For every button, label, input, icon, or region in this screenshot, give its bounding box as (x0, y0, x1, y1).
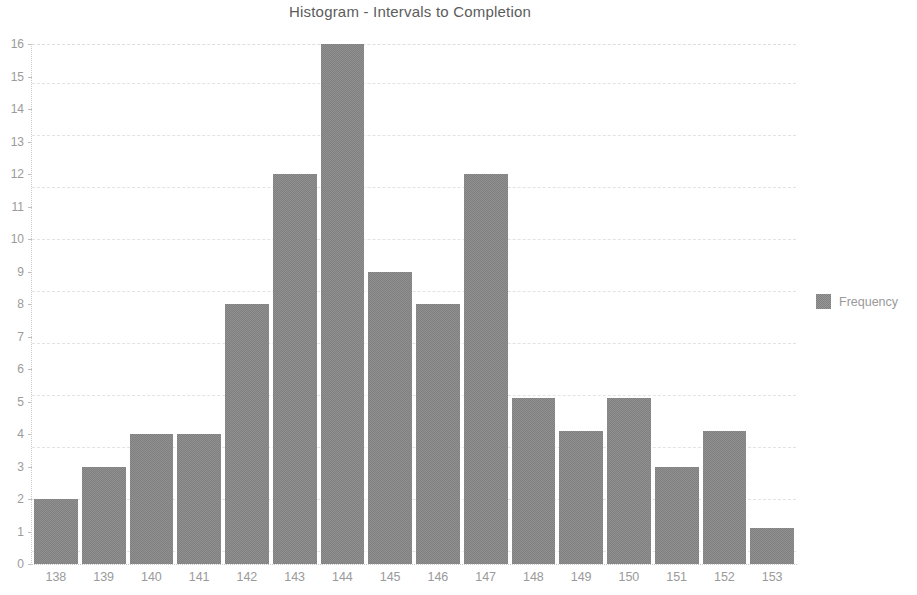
x-axis-tick-label: 147 (462, 570, 510, 584)
bar (607, 398, 651, 564)
y-axis-tick-label: 7 (17, 330, 24, 344)
legend-label-frequency: Frequency (839, 295, 898, 309)
y-axis-tick-label: 4 (17, 427, 24, 441)
y-axis-tick-label: 9 (17, 265, 24, 279)
legend-swatch-frequency (816, 294, 831, 309)
x-axis: 1381391401411421431441451461471481491501… (32, 568, 796, 594)
bar (82, 467, 126, 565)
bar (34, 499, 78, 564)
bar (464, 174, 508, 564)
plot-area (32, 44, 796, 564)
legend: Frequency (816, 294, 898, 309)
y-axis-tick-label: 13 (11, 135, 24, 149)
x-axis-tick-label: 153 (748, 570, 796, 584)
bar (559, 431, 603, 564)
y-axis-tick-label: 11 (12, 200, 24, 214)
bar (512, 398, 556, 564)
bar (225, 304, 269, 564)
bar (368, 272, 412, 565)
y-axis-tick-label: 2 (17, 492, 24, 506)
x-axis-tick-label: 144 (319, 570, 367, 584)
x-axis-tick-label: 150 (605, 570, 653, 584)
bar (750, 528, 794, 564)
x-axis-tick-label: 140 (128, 570, 176, 584)
histogram-chart: Histogram - Intervals to Completion 0123… (0, 0, 917, 595)
x-axis-tick-label: 138 (32, 570, 80, 584)
x-axis-tick-label: 148 (510, 570, 558, 584)
bar (177, 434, 221, 564)
x-axis-tick-label: 152 (701, 570, 749, 584)
x-axis-tick-label: 143 (271, 570, 319, 584)
x-axis-line (31, 564, 797, 565)
bar (321, 44, 365, 564)
bar (703, 431, 747, 564)
y-axis-tick-label: 1 (17, 525, 24, 539)
x-axis-tick-label: 139 (80, 570, 128, 584)
y-axis-tick-label: 15 (11, 70, 24, 84)
x-axis-tick-label: 151 (653, 570, 701, 584)
x-axis-tick-label: 146 (414, 570, 462, 584)
x-axis-tick-label: 145 (366, 570, 414, 584)
x-axis-tick-label: 149 (557, 570, 605, 584)
y-axis-tick-label: 16 (11, 37, 24, 51)
chart-title: Histogram - Intervals to Completion (0, 3, 820, 20)
y-axis-tick-label: 6 (17, 362, 24, 376)
bar (655, 467, 699, 565)
bar (130, 434, 174, 564)
y-axis: 012345678910111213141516 (0, 0, 32, 595)
x-axis-tick-label: 141 (175, 570, 223, 584)
bar (416, 304, 460, 564)
y-axis-tick-label: 10 (11, 232, 24, 246)
y-axis-tick-label: 0 (17, 557, 24, 571)
y-axis-tick-label: 5 (17, 395, 24, 409)
y-axis-tick-label: 12 (11, 167, 24, 181)
y-axis-tick-label: 8 (17, 297, 24, 311)
y-axis-tick-label: 14 (11, 102, 24, 116)
bar-series (32, 44, 796, 564)
y-axis-tick-label: 3 (17, 460, 24, 474)
x-axis-tick-label: 142 (223, 570, 271, 584)
bar (273, 174, 317, 564)
